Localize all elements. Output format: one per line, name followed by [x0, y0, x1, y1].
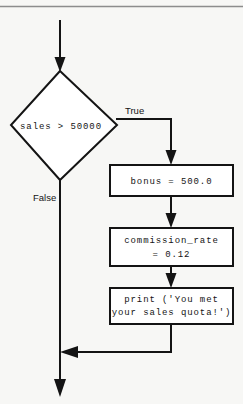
print-box-line-1: print ('You met [124, 295, 219, 305]
true-branch-arrow-head [166, 150, 177, 165]
exit-arrow-head [54, 379, 66, 397]
bonus-box-line-1: bonus = 500.0 [131, 177, 213, 187]
merge-arrow-head [60, 346, 78, 358]
decision-label: sales > 50000 [20, 122, 102, 132]
print-box [110, 288, 233, 324]
flowchart-svg: sales > 50000 True False bonus = 500.0 c… [0, 0, 243, 404]
flowchart-canvas: sales > 50000 True False bonus = 500.0 c… [0, 0, 243, 404]
commission-box-line-1: commission_rate [124, 236, 219, 246]
commission-to-print-arrow-head [166, 273, 177, 288]
true-label: True [125, 105, 144, 116]
print-box-line-2: your sales quota!') [112, 308, 232, 318]
commission-box-line-2: = 0.12 [153, 250, 191, 260]
bonus-to-commission-arrow-head [166, 213, 177, 228]
false-label: False [33, 192, 56, 203]
commission-box [110, 228, 233, 266]
